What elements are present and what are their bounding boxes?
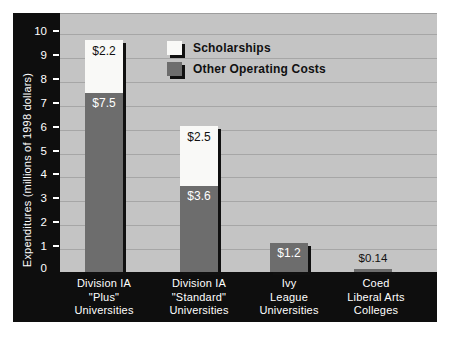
y-tick-mark-4 <box>53 173 59 175</box>
legend-item-scholarships: Scholarships <box>167 40 326 55</box>
y-tick-label-9: 9 <box>13 49 47 61</box>
y-tick-mark-8 <box>53 78 59 80</box>
y-tick-mark-3 <box>53 197 59 199</box>
y-tick-label-5: 5 <box>13 145 47 157</box>
bar-2-scholarships-segment: $2.5 <box>180 126 218 186</box>
scholarships-swatch-icon <box>167 41 182 55</box>
stacked-bar-chart: Expenditures (millions of 1998 dollars) … <box>13 13 437 322</box>
bar-1-other-costs-segment: $7.5 <box>85 93 123 272</box>
bar-3-other-costs-segment: $1.2 <box>270 243 308 272</box>
legend-item-other-operating-costs: Other Operating Costs <box>167 61 326 76</box>
y-tick-label-4: 4 <box>13 168 47 180</box>
bar-3: $1.2 <box>270 243 308 272</box>
legend-label: Scholarships <box>193 41 271 55</box>
bar-4-value-label: $0.14 <box>341 252 405 264</box>
y-tick-label-3: 3 <box>13 192 47 204</box>
y-tick-label-2: 2 <box>13 216 47 228</box>
legend-label: Other Operating Costs <box>193 62 326 76</box>
gridline-10 <box>60 34 437 35</box>
y-tick-label-6: 6 <box>13 121 47 133</box>
y-tick-label-1: 1 <box>13 240 47 252</box>
category-label-4: CoedLiberal ArtsColleges <box>311 277 441 318</box>
y-tick-mark-10 <box>53 30 59 32</box>
bar-1: $2.2$7.5 <box>85 40 123 272</box>
bar-2: $2.5$3.6 <box>180 126 218 272</box>
y-tick-mark-1 <box>53 245 59 247</box>
x-axis-labels: Division IA"Plus"UniversitiesDivision IA… <box>13 272 437 322</box>
legend: Scholarships Other Operating Costs <box>167 40 326 82</box>
y-tick-mark-9 <box>53 54 59 56</box>
y-tick-mark-2 <box>53 221 59 223</box>
y-tick-mark-5 <box>53 150 59 152</box>
y-tick-mark-7 <box>53 102 59 104</box>
other-costs-swatch-icon <box>167 62 182 76</box>
plot-area: $2.2$7.5$2.5$3.6$1.2$0.14 Scholarships O… <box>60 13 437 272</box>
y-tick-label-7: 7 <box>13 97 47 109</box>
y-tick-mark-6 <box>53 126 59 128</box>
figure-canvas: Expenditures (millions of 1998 dollars) … <box>0 0 450 340</box>
bar-1-scholarships-segment: $2.2 <box>85 40 123 93</box>
y-tick-label-10: 10 <box>13 25 47 37</box>
bar-2-other-costs-segment: $3.6 <box>180 186 218 272</box>
y-tick-label-8: 8 <box>13 73 47 85</box>
